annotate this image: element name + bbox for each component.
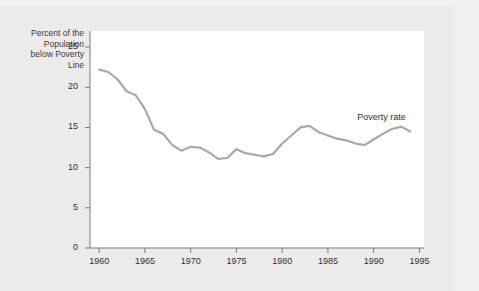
x-tick-label: 1970 (174, 256, 208, 266)
x-tick-label: 1965 (128, 256, 162, 266)
y-tick-label: 25 (52, 41, 78, 51)
y-tick-label: 15 (52, 121, 78, 131)
y-tick-label: 10 (52, 162, 78, 172)
y-tick-label: 5 (52, 202, 78, 212)
x-tick-label: 1960 (82, 256, 116, 266)
poverty-rate-annotation: Poverty rate (357, 112, 406, 122)
y-axis-ticks (85, 47, 90, 248)
x-tick-label: 1975 (219, 256, 253, 266)
x-tick-label: 1990 (357, 256, 391, 266)
y-tick-label: 20 (52, 81, 78, 91)
x-tick-label: 1980 (265, 256, 299, 266)
chart-figure: Percent of the Population below Poverty … (0, 0, 479, 291)
x-tick-label: 1985 (311, 256, 345, 266)
x-tick-label: 1995 (402, 256, 436, 266)
y-tick-label: 0 (52, 242, 78, 252)
x-axis-ticks (99, 248, 419, 253)
